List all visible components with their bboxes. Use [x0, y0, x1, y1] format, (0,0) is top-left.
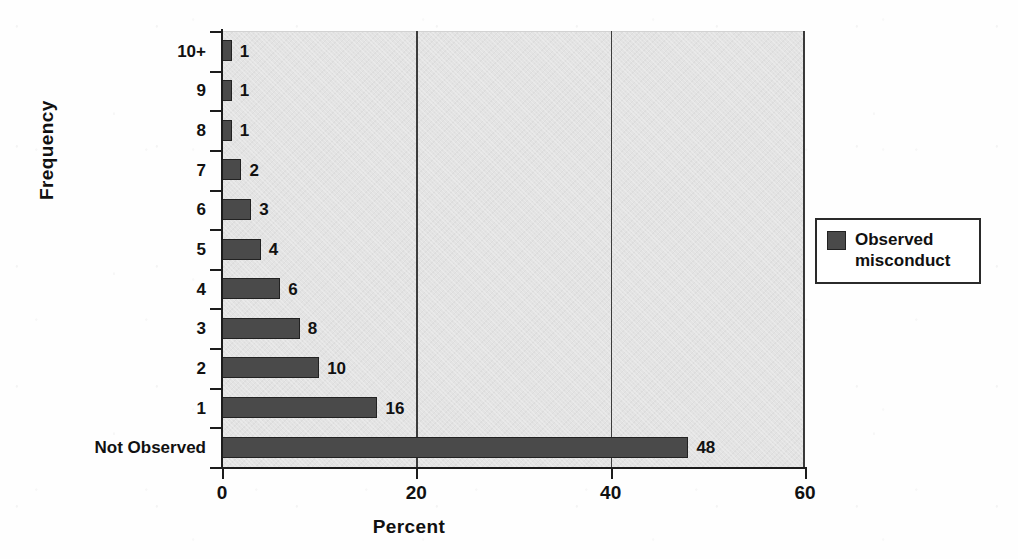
data-label-5: 4: [269, 241, 278, 258]
y-tick-6: [210, 269, 222, 271]
y-tick-4: [210, 190, 222, 192]
data-label-3: 8: [308, 320, 317, 337]
data-label-2: 10: [327, 360, 346, 377]
y-tick-7: [210, 308, 222, 310]
x-tick-60: [805, 467, 807, 479]
x-tick-label-20: 20: [406, 483, 427, 502]
x-axis-line: [221, 467, 805, 469]
y-axis-line: [221, 29, 223, 469]
data-label-9: 1: [240, 82, 249, 99]
y-tick-label-group: 10+987654321Not Observed: [0, 0, 206, 559]
data-label-8: 1: [240, 122, 249, 139]
y-tick-label-10-: 10+: [177, 43, 206, 60]
plot-right-border: [803, 31, 805, 467]
plot-top-border: [222, 31, 805, 32]
data-label-not-observed: 48: [696, 439, 715, 456]
bar-10-: [222, 40, 232, 61]
y-tick-label-5: 5: [197, 241, 206, 258]
data-label-7: 2: [249, 162, 258, 179]
x-axis-title-text: Percent: [373, 516, 446, 538]
x-tick-label-40: 40: [600, 483, 621, 502]
data-label-6: 3: [259, 201, 268, 218]
y-tick-label-4: 4: [197, 281, 206, 298]
y-tick-label-8: 8: [197, 122, 206, 139]
y-tick-label-7: 7: [197, 162, 206, 179]
bar-3: [222, 318, 300, 339]
y-tick-10: [210, 427, 222, 429]
chart-figure: 10+987654321Not Observed 11123468101648 …: [0, 0, 1018, 559]
plot-area: [222, 31, 805, 467]
gridline-40: [611, 31, 613, 467]
y-axis-title: Frequency: [36, 100, 58, 200]
y-tick-2: [210, 110, 222, 112]
y-tick-1: [210, 71, 222, 73]
y-tick-label-1: 1: [197, 400, 206, 417]
x-tick-20: [416, 467, 418, 479]
bar-6: [222, 199, 251, 220]
y-tick-3: [210, 150, 222, 152]
bar-4: [222, 278, 280, 299]
legend-box: Observed misconduct: [815, 218, 981, 284]
data-label-1: 16: [385, 400, 404, 417]
x-tick-label-60: 60: [794, 483, 815, 502]
data-label-10-: 1: [240, 43, 249, 60]
data-label-4: 6: [288, 281, 297, 298]
y-tick-label-6: 6: [197, 201, 206, 218]
x-tick-label-0: 0: [217, 483, 228, 502]
bar-8: [222, 120, 232, 141]
bar-7: [222, 159, 241, 180]
legend-label-observed-misconduct: Observed misconduct: [855, 229, 950, 271]
x-axis-title: Percent: [0, 516, 1018, 538]
bar-not-observed: [222, 437, 688, 458]
y-tick-11: [210, 467, 222, 469]
y-tick-label-3: 3: [197, 320, 206, 337]
gridline-20: [416, 31, 418, 467]
bar-9: [222, 80, 232, 101]
legend-swatch-observed-misconduct: [827, 231, 846, 250]
y-tick-8: [210, 348, 222, 350]
y-tick-label-2: 2: [197, 360, 206, 377]
y-tick-9: [210, 388, 222, 390]
legend-label-line-2: misconduct: [855, 251, 950, 270]
x-tick-40: [611, 467, 613, 479]
y-tick-label-9: 9: [197, 82, 206, 99]
x-tick-0: [222, 467, 224, 479]
legend-label-line-1: Observed: [855, 230, 933, 249]
y-tick-label-not-observed: Not Observed: [95, 439, 206, 456]
bar-1: [222, 397, 377, 418]
bar-5: [222, 239, 261, 260]
y-tick-5: [210, 229, 222, 231]
y-tick-0: [210, 31, 222, 33]
bar-2: [222, 357, 319, 378]
